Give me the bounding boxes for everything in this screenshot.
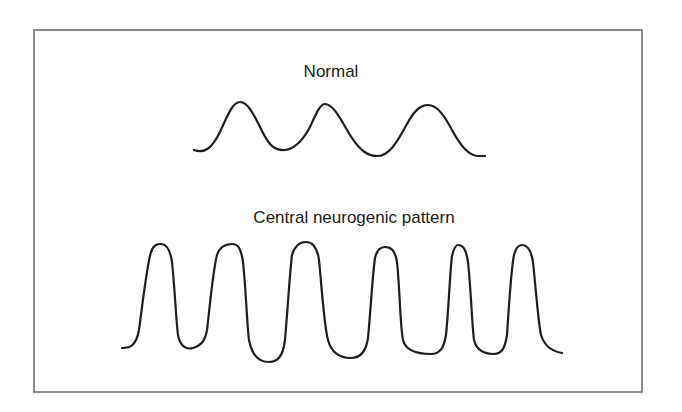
central-neurogenic-waveform [122, 242, 562, 362]
normal-waveform [194, 102, 485, 156]
waveforms [0, 0, 682, 412]
